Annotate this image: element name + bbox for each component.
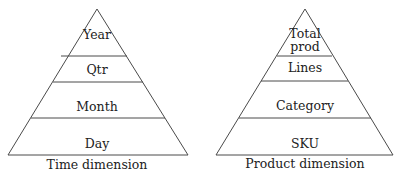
- diagram-canvas: Year Qtr Month Day Time dimension Total …: [0, 0, 399, 178]
- product-level-sku: SKU: [291, 136, 319, 151]
- time-level-day: Day: [85, 136, 110, 151]
- product-level-total-line2: prod: [290, 39, 320, 54]
- time-caption: Time dimension: [47, 157, 148, 172]
- product-level-lines: Lines: [288, 60, 322, 75]
- product-level-category: Category: [276, 98, 335, 113]
- time-level-year: Year: [82, 27, 111, 42]
- product-caption: Product dimension: [245, 156, 364, 171]
- time-pyramid: Year Qtr Month Day Time dimension: [8, 9, 188, 172]
- product-pyramid: Total prod Lines Category SKU Product di…: [216, 9, 393, 171]
- time-level-month: Month: [76, 99, 117, 114]
- time-level-qtr: Qtr: [86, 62, 107, 77]
